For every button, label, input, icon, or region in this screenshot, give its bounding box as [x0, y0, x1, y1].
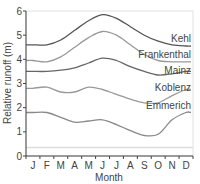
- x-tick-label: D: [182, 160, 189, 171]
- x-tick-label: A: [71, 160, 78, 171]
- series-label-emmerich: Emmerich: [146, 100, 191, 111]
- x-tick-label: J: [30, 160, 35, 171]
- y-tick-label: 1: [16, 126, 22, 137]
- x-tick-label: S: [141, 160, 148, 171]
- x-axis: JFMAMJJASOND: [26, 156, 193, 171]
- x-axis-title: Month: [95, 172, 123, 183]
- series-label-mainz: Mainz: [164, 65, 191, 76]
- y-axis-title: Relative runoff (m): [2, 42, 13, 124]
- series-label-koblenz: Koblenz: [155, 82, 191, 93]
- runoff-chart: KehlFrankenthalMainzKoblenzEmmerich 0123…: [0, 0, 200, 184]
- x-tick-label: F: [44, 160, 50, 171]
- series-label-kehl: Kehl: [171, 33, 191, 44]
- y-tick-label: 5: [16, 30, 22, 41]
- x-tick-label: A: [127, 160, 134, 171]
- y-tick-label: 3: [16, 78, 22, 89]
- x-tick-label: M: [57, 160, 65, 171]
- y-tick-label: 6: [16, 6, 22, 17]
- x-tick-label: J: [100, 160, 105, 171]
- y-axis: 0123456: [16, 6, 26, 162]
- x-tick-label: J: [114, 160, 119, 171]
- x-tick-label: M: [84, 160, 92, 171]
- x-tick-label: N: [169, 160, 176, 171]
- series-label-frankenthal: Frankenthal: [138, 49, 191, 60]
- y-tick-label: 2: [16, 102, 22, 113]
- y-tick-label: 4: [16, 54, 22, 65]
- x-tick-label: O: [154, 160, 162, 171]
- y-tick-label: 0: [16, 151, 22, 162]
